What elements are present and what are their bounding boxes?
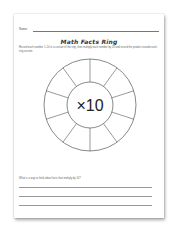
ring-section-divider [46,91,68,98]
name-row: Name: [19,27,159,33]
answer-line [19,196,152,197]
instructions-text: Record each number 1–10 in a section of … [19,46,159,53]
answer-line [19,187,152,188]
center-label: ×10 [76,97,103,114]
ring-section-divider [63,124,77,143]
answer-line [19,205,152,206]
ring-section-divider [63,68,77,87]
name-label: Name: [19,27,28,31]
worksheet-title: Math Facts Ring [14,38,164,45]
math-facts-ring: ×10 [42,57,138,153]
ring-section-divider [112,112,134,119]
worksheet-page: Name: Math Facts Ring Record each number… [14,14,164,218]
question-text: What is a way to think about facts that … [19,177,81,181]
ring-section-divider [104,68,118,87]
ring-section-divider [104,124,118,143]
name-field-line [33,31,159,32]
ring-section-divider [112,91,134,98]
ring-section-divider [46,112,68,119]
